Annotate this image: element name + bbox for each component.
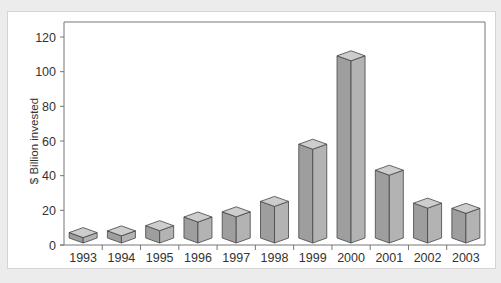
- bar-2001: [375, 165, 403, 243]
- bar-1996: [184, 212, 212, 243]
- x-tick-label: 2002: [414, 251, 442, 265]
- x-tick-label: 1995: [146, 251, 174, 265]
- x-tick-label: 1999: [299, 251, 327, 265]
- x-tick-label: 1998: [261, 251, 289, 265]
- x-tick-label: 2003: [452, 251, 480, 265]
- chart-bars: [69, 51, 480, 243]
- x-tick-label: 1994: [108, 251, 136, 265]
- bar-2003: [452, 203, 480, 243]
- bar-2002: [414, 198, 442, 243]
- bar-1994: [107, 226, 135, 243]
- x-tick-label: 2001: [375, 251, 403, 265]
- bar-1993: [69, 228, 97, 243]
- y-tick-label: 100: [35, 65, 56, 79]
- bar-2000: [337, 51, 365, 243]
- y-tick-label: 20: [42, 204, 56, 218]
- y-tick-label: 40: [42, 169, 56, 183]
- bar-chart: 0204060801001201993199419951996199719981…: [0, 0, 501, 283]
- y-tick-label: 80: [42, 100, 56, 114]
- bar-1995: [146, 221, 174, 243]
- x-tick-label: 1997: [222, 251, 250, 265]
- x-tick-label: 1996: [184, 251, 212, 265]
- x-tick-label: 2000: [337, 251, 365, 265]
- y-axis-label: $ Billion invested: [28, 98, 40, 184]
- y-tick-label: 0: [49, 239, 56, 253]
- y-tick-label: 60: [42, 135, 56, 149]
- x-tick-label: 1993: [69, 251, 97, 265]
- bar-1998: [261, 196, 289, 243]
- bar-1999: [299, 139, 327, 243]
- y-tick-label: 120: [35, 31, 56, 45]
- bar-1997: [222, 207, 250, 243]
